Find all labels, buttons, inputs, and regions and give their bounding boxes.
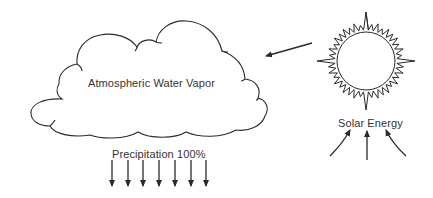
precipitation-arrows — [112, 160, 206, 186]
sun-to-cloud-arrow — [266, 43, 312, 56]
sun-icon — [317, 12, 415, 110]
solar-energy-label: Solar Energy — [338, 117, 403, 129]
precipitation-label: Precipitation 100% — [112, 148, 206, 160]
cloud-label: Atmospheric Water Vapor — [88, 77, 215, 89]
diagram-canvas — [0, 0, 433, 198]
solar-input-arrows — [330, 130, 406, 160]
